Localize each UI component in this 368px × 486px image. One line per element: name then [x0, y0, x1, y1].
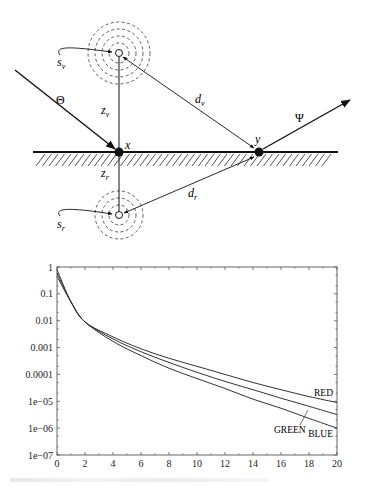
x-tick-label: 0: [55, 458, 60, 469]
x-tick-label: 12: [220, 458, 230, 469]
label-psi: Ψ: [295, 111, 304, 125]
y-tick-label: 0.001: [31, 342, 54, 353]
label-z-r: zr: [100, 166, 110, 182]
x-tick-label: 6: [139, 458, 144, 469]
label-s-v: sv: [57, 55, 66, 71]
x-tick-label: 2: [83, 458, 88, 469]
label-d-r: dr: [188, 186, 198, 202]
label-d-v: dv: [195, 92, 205, 108]
y-tick-label: 1e−07: [28, 450, 53, 461]
label-x: x: [124, 138, 131, 152]
label-s-r: sr: [57, 217, 66, 233]
x-tick-label: 16: [276, 458, 286, 469]
x-tick-label: 20: [332, 458, 342, 469]
series-line-blue: [57, 276, 337, 428]
x-tick-label: 10: [192, 458, 202, 469]
label-theta: Θ: [56, 93, 65, 107]
caption-fragment: [10, 478, 270, 482]
series-label-green: GREEN: [274, 425, 306, 435]
series-lines: [57, 270, 337, 429]
y-tick-labels: 10.10.010.0010.00011e−051e−061e−07: [26, 262, 54, 461]
d-r-arrow: [124, 157, 254, 213]
dipole-diagram: sv sr Θ zv zr dv dr Ψ x y: [15, 22, 350, 239]
real-source-icon: [116, 212, 123, 219]
x-tick-labels: 02468101214161820: [55, 458, 343, 469]
y-tick-label: 1e−05: [28, 396, 53, 407]
s-v-arrow: [59, 48, 112, 55]
point-x-icon: [115, 148, 124, 157]
chart: 02468101214161820 10.10.010.0010.00011e−…: [26, 262, 343, 470]
x-tick-label: 8: [167, 458, 172, 469]
y-tick-label: 0.0001: [26, 369, 54, 380]
label-y: y: [254, 132, 261, 146]
surface-hatching: [36, 154, 331, 166]
virtual-source-icon: [116, 50, 123, 57]
outgoing-arrow: [263, 100, 350, 149]
x-tick-label: 18: [304, 458, 314, 469]
y-tick-label: 1: [48, 262, 53, 273]
figure: sv sr Θ zv zr dv dr Ψ x y 02468101214161…: [0, 0, 368, 486]
x-tick-label: 4: [111, 458, 116, 469]
series-line-red: [57, 270, 337, 403]
y-tick-label: 0.1: [41, 288, 54, 299]
s-r-arrow: [59, 209, 112, 216]
x-tick-label: 14: [248, 458, 258, 469]
y-tick-label: 1e−06: [28, 423, 53, 434]
series-label-blue: BLUE: [308, 429, 333, 439]
series-label-red: RED: [314, 388, 333, 398]
point-y-icon: [255, 148, 264, 157]
y-tick-label: 0.01: [36, 315, 54, 326]
d-v-arrow: [123, 57, 254, 148]
incident-arrow: [15, 70, 115, 149]
label-z-v: zv: [100, 103, 110, 119]
